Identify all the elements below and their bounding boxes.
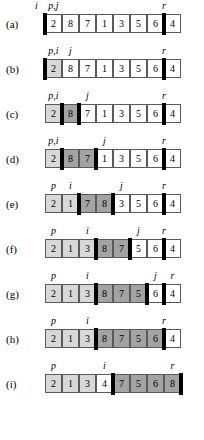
- array-row-i: (i)21347568pir: [0, 360, 204, 405]
- boundary-bar: [128, 238, 132, 260]
- boundary-bar: [43, 13, 47, 35]
- array-cell: 7: [113, 329, 130, 348]
- pointer-label: r: [162, 46, 166, 56]
- array-cell: 7: [113, 284, 130, 303]
- array-cell: 5: [130, 59, 147, 78]
- boundary-bar: [111, 193, 115, 215]
- array-cell: 4: [164, 239, 181, 258]
- array-track-e: 21783564pijr: [45, 194, 197, 215]
- array-cell: 7: [79, 194, 96, 213]
- boundary-bar: [162, 13, 166, 35]
- array-cell: 2: [45, 329, 62, 348]
- array-cell: 8: [96, 239, 113, 258]
- boundary-bar: [179, 373, 183, 395]
- pointer-label: j: [120, 181, 123, 191]
- boundary-bar: [162, 193, 166, 215]
- array-cell: 2: [45, 14, 62, 33]
- pointer-label: p,j: [48, 1, 58, 11]
- array-cell: 4: [164, 194, 181, 213]
- boundary-bar: [60, 103, 64, 125]
- pointer-label: p: [51, 181, 56, 191]
- array-cell: 4: [164, 14, 181, 33]
- boundary-bar: [162, 148, 166, 170]
- array-cell: 6: [147, 374, 164, 393]
- row-label-d: (d): [6, 154, 32, 165]
- boundary-bar: [145, 283, 149, 305]
- boundary-bar: [60, 148, 64, 170]
- row-label-g: (g): [6, 289, 32, 300]
- boundary-bar: [94, 238, 98, 260]
- array-cell: 3: [113, 149, 130, 168]
- boundary-bar: [162, 58, 166, 80]
- array-cell: 8: [62, 14, 79, 33]
- pointer-label: r: [162, 181, 166, 191]
- array-cell: 8: [96, 284, 113, 303]
- boundary-bar: [162, 103, 166, 125]
- array-row-c: (c)28713564p,ijr: [0, 90, 204, 135]
- pointer-label: p,i: [48, 136, 58, 146]
- boundary-bar: [94, 328, 98, 350]
- row-label-h: (h): [6, 334, 32, 345]
- array-cell: 8: [62, 149, 79, 168]
- array-row-f: (f)21387564pijr: [0, 225, 204, 270]
- array-track-f: 21387564pijr: [45, 239, 197, 260]
- array-row-e: (e)21783564pijr: [0, 180, 204, 225]
- pointer-label: r: [162, 91, 166, 101]
- array-cell: 5: [130, 374, 147, 393]
- array-cell: 4: [164, 329, 181, 348]
- pointer-label: i: [86, 316, 89, 326]
- array-cell: 5: [130, 194, 147, 213]
- pointer-label: i: [35, 1, 38, 11]
- array-row-d: (d)28713564p,ijr: [0, 135, 204, 180]
- array-track-i: 21347568pir: [45, 374, 197, 395]
- array-cell: 8: [62, 59, 79, 78]
- array-cell: 5: [130, 149, 147, 168]
- array-cell: 1: [62, 284, 79, 303]
- pointer-label: p: [51, 316, 56, 326]
- array-cell: 1: [62, 239, 79, 258]
- boundary-bar: [77, 193, 81, 215]
- array-track-h: 21387564pir: [45, 329, 197, 350]
- row-label-a: (a): [6, 19, 32, 30]
- array-cell: 7: [79, 104, 96, 123]
- array-cell: 3: [113, 59, 130, 78]
- pointer-label: r: [171, 271, 175, 281]
- pointer-label: i: [86, 226, 89, 236]
- pointer-label: r: [162, 1, 166, 11]
- array-cell: 7: [79, 14, 96, 33]
- array-row-b: (b)28713564p,ijr: [0, 45, 204, 90]
- boundary-bar: [162, 238, 166, 260]
- array-cell: 5: [130, 104, 147, 123]
- array-cell: 8: [96, 329, 113, 348]
- array-row-a: (a)28713564ip,jr: [0, 0, 204, 45]
- array-cell: 4: [164, 104, 181, 123]
- quicksort-partition-figure: (a)28713564ip,jr(b)28713564p,ijr(c)28713…: [0, 0, 204, 440]
- pointer-label: p: [51, 361, 56, 371]
- array-cell: 1: [96, 104, 113, 123]
- row-label-i: (i): [6, 379, 32, 390]
- pointer-label: i: [103, 361, 106, 371]
- pointer-label: j: [86, 91, 89, 101]
- pointer-label: r: [162, 136, 166, 146]
- row-label-e: (e): [6, 199, 32, 210]
- array-cell: 1: [62, 374, 79, 393]
- boundary-bar: [94, 283, 98, 305]
- pointer-label: j: [103, 136, 106, 146]
- array-cell: 1: [96, 149, 113, 168]
- row-label-b: (b): [6, 64, 32, 75]
- pointer-label: r: [162, 226, 166, 236]
- array-cell: 5: [130, 14, 147, 33]
- array-cell: 4: [164, 149, 181, 168]
- array-cell: 3: [79, 374, 96, 393]
- array-track-d: 28713564p,ijr: [45, 149, 197, 170]
- array-row-h: (h)21387564pir: [0, 315, 204, 360]
- pointer-label: p,i: [48, 46, 58, 56]
- boundary-bar: [94, 148, 98, 170]
- array-cell: 2: [45, 59, 62, 78]
- row-label-f: (f): [6, 244, 32, 255]
- array-cell: 4: [164, 59, 181, 78]
- array-cell: 2: [45, 194, 62, 213]
- pointer-label: r: [171, 361, 175, 371]
- boundary-bar: [43, 58, 47, 80]
- pointer-label: p: [51, 226, 56, 236]
